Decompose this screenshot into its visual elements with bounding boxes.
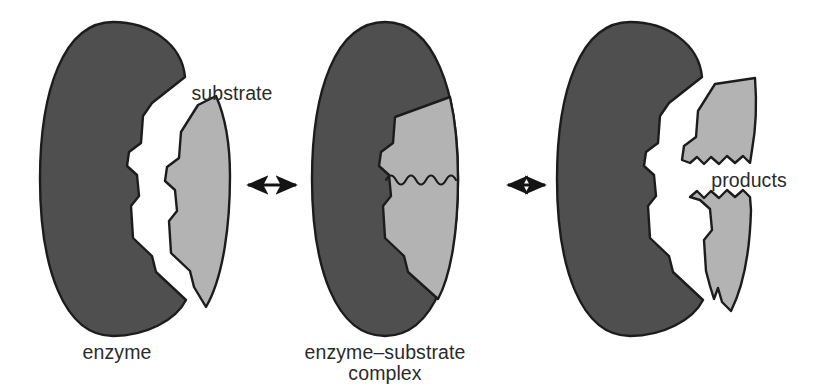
diagram-canvas: enzyme substrate enzyme–substrate comple…: [0, 0, 821, 388]
enzyme-reaction-diagram: enzyme substrate enzyme–substrate comple…: [0, 0, 821, 388]
enzyme-label: enzyme: [83, 341, 152, 363]
complex-label-line2: complex: [348, 362, 421, 384]
complex-label-line1: enzyme–substrate: [305, 341, 466, 363]
substrate-label: substrate: [191, 82, 272, 104]
products-label: products: [711, 169, 787, 191]
